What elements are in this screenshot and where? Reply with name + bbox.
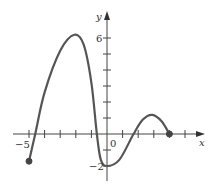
y-tick-label-neg2: −2 (89, 161, 104, 172)
endpoint-dot (166, 131, 172, 137)
y-tick-label-6: 6 (96, 33, 102, 44)
endpoint-dot (26, 158, 32, 164)
function-curve (29, 35, 169, 166)
x-axis-label: x (199, 137, 205, 148)
x-tick-label-neg5: −5 (15, 139, 30, 150)
function-graph: y x 0 −5 6 −2 (0, 0, 215, 190)
origin-label: 0 (110, 138, 116, 149)
y-axis-arrow-icon (104, 11, 110, 20)
y-axis-label: y (95, 11, 102, 22)
